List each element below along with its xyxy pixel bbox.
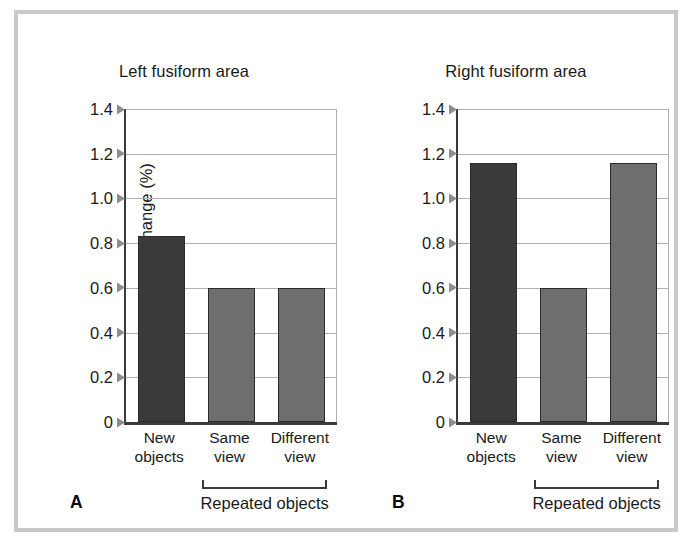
y-axis-tick: 0: [436, 413, 458, 432]
y-axis-tick: 1.4: [90, 100, 126, 119]
panel-b-group-bracket: [534, 480, 659, 489]
triangle-tick-icon: [117, 104, 125, 114]
x-axis-category-line: New: [124, 428, 194, 447]
chart-panel-b: Right fusiform area BOLD signal change (…: [350, 14, 682, 536]
y-axis-tick-label: 0.2: [422, 368, 445, 387]
panel-b-plot-area: 00.20.40.60.81.01.21.4: [456, 109, 669, 422]
triangle-tick-icon: [117, 372, 125, 382]
triangle-tick-icon: [449, 417, 457, 427]
y-axis-tick-label: 1.0: [422, 189, 445, 208]
x-axis-category-line: Same: [526, 428, 596, 447]
gridline: [458, 154, 669, 155]
x-axis-category-line: view: [194, 447, 264, 466]
y-axis-tick: 0: [104, 413, 126, 432]
bar-different-view: [278, 288, 325, 422]
y-axis-tick: 0.8: [90, 234, 126, 253]
triangle-tick-icon: [449, 372, 457, 382]
y-axis-tick-label: 0.6: [422, 278, 445, 297]
x-axis-category-line: view: [597, 447, 667, 466]
y-axis-tick: 1.0: [422, 189, 458, 208]
y-axis-tick: 0.4: [422, 323, 458, 342]
y-axis-tick-label: 0.8: [422, 234, 445, 253]
y-axis-tick-label: 0: [104, 413, 113, 432]
panel-a-group-label: Repeated objects: [162, 494, 367, 513]
x-axis-category-line: New: [456, 428, 526, 447]
x-axis-category-line: view: [265, 447, 335, 466]
triangle-tick-icon: [449, 149, 457, 159]
x-axis-category-line: objects: [456, 447, 526, 466]
panel-b-letter: B: [392, 492, 405, 513]
bar-same-view: [208, 288, 255, 422]
panel-a-x-axis-line: [124, 422, 338, 425]
triangle-tick-icon: [449, 328, 457, 338]
y-axis-tick: 0.8: [422, 234, 458, 253]
y-axis-tick-label: 1.4: [422, 100, 445, 119]
triangle-tick-icon: [449, 283, 457, 293]
x-axis-category-label: Differentview: [265, 428, 335, 466]
y-axis-tick: 1.0: [90, 189, 126, 208]
y-axis-tick: 0.6: [90, 278, 126, 297]
y-axis-tick-label: 0.2: [90, 368, 113, 387]
y-axis-tick-label: 1.0: [90, 189, 113, 208]
panel-a-letter: A: [70, 492, 83, 513]
gridline: [126, 109, 337, 110]
y-axis-tick-label: 0.4: [90, 323, 113, 342]
y-axis-tick-label: 1.4: [90, 100, 113, 119]
y-axis-tick: 0.4: [90, 323, 126, 342]
y-axis-tick: 1.4: [422, 100, 458, 119]
x-axis-category-label: Sameview: [526, 428, 596, 466]
bar-new-objects: [470, 163, 517, 422]
panel-b-plot-right-edge: [668, 109, 669, 422]
panel-b-x-axis-line: [456, 422, 670, 425]
y-axis-tick: 0.6: [422, 278, 458, 297]
gridline: [458, 109, 669, 110]
panel-b-group-label: Repeated objects: [494, 494, 696, 513]
panel-a-group-bracket: [202, 480, 327, 489]
y-axis-tick: 1.2: [422, 144, 458, 163]
y-axis-tick-label: 0.6: [90, 278, 113, 297]
x-axis-category-label: Newobjects: [456, 428, 526, 466]
y-axis-tick-label: 0: [436, 413, 445, 432]
y-axis-tick-label: 0.4: [422, 323, 445, 342]
triangle-tick-icon: [117, 417, 125, 427]
y-axis-tick: 0.2: [90, 368, 126, 387]
x-axis-category-line: Different: [597, 428, 667, 447]
triangle-tick-icon: [117, 149, 125, 159]
x-axis-category-label: Differentview: [597, 428, 667, 466]
panel-a-plot-area: 00.20.40.60.81.01.21.4: [124, 109, 337, 422]
y-axis-tick-label: 1.2: [90, 144, 113, 163]
y-axis-tick: 1.2: [90, 144, 126, 163]
x-axis-category-line: Different: [265, 428, 335, 447]
gridline: [126, 198, 337, 199]
panel-a-title: Left fusiform area: [18, 62, 350, 81]
triangle-tick-icon: [117, 328, 125, 338]
triangle-tick-icon: [449, 238, 457, 248]
triangle-tick-icon: [449, 193, 457, 203]
x-axis-category-line: Same: [194, 428, 264, 447]
figure-frame: Left fusiform area BOLD signal change (%…: [14, 10, 678, 532]
bar-same-view: [540, 288, 587, 422]
x-axis-category-label: Newobjects: [124, 428, 194, 466]
chart-panel-a: Left fusiform area BOLD signal change (%…: [18, 14, 350, 536]
y-axis-tick-label: 0.8: [90, 234, 113, 253]
y-axis-tick-label: 1.2: [422, 144, 445, 163]
x-axis-category-line: objects: [124, 447, 194, 466]
panel-a-plot-right-edge: [336, 109, 337, 422]
y-axis-tick: 0.2: [422, 368, 458, 387]
panel-b-title: Right fusiform area: [350, 62, 682, 81]
triangle-tick-icon: [449, 104, 457, 114]
gridline: [126, 154, 337, 155]
x-axis-category-line: view: [526, 447, 596, 466]
triangle-tick-icon: [117, 193, 125, 203]
x-axis-category-label: Sameview: [194, 428, 264, 466]
triangle-tick-icon: [117, 283, 125, 293]
bar-different-view: [610, 163, 657, 422]
bar-new-objects: [138, 236, 185, 422]
triangle-tick-icon: [117, 238, 125, 248]
